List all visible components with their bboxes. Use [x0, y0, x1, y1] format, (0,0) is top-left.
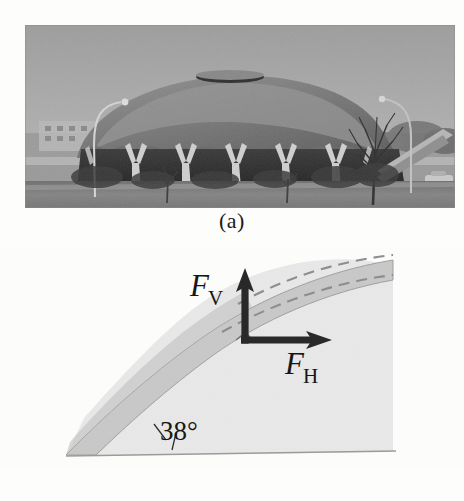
panel-b-force-diagram: 38° F V F H	[0, 248, 464, 468]
photo-grain-overlay	[25, 25, 455, 208]
photograph-image	[25, 25, 455, 208]
dome-photograph	[25, 25, 455, 208]
panel-a-photograph: (a)	[0, 0, 464, 240]
caption-a: (a)	[0, 208, 464, 234]
figure-root: (a)	[0, 0, 464, 501]
force-diagram: 38° F V F H	[0, 248, 464, 468]
diagram-grain-overlay	[0, 248, 464, 468]
